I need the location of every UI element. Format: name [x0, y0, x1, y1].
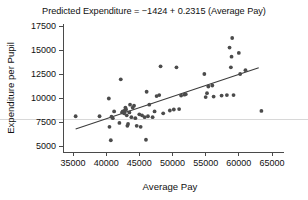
- data-point: [98, 114, 102, 118]
- data-point: [205, 91, 209, 95]
- data-point: [159, 64, 163, 68]
- data-point: [144, 138, 148, 142]
- data-point: [157, 93, 161, 97]
- data-point: [145, 90, 149, 94]
- y-tick-label: 17500: [31, 21, 56, 31]
- data-point: [228, 46, 232, 50]
- data-point: [177, 107, 181, 111]
- chart-figure: Predicted Expenditure = −1424 + 0.2315 (…: [0, 0, 308, 200]
- data-point: [139, 125, 143, 129]
- x-tick-label: 40000: [94, 158, 119, 168]
- x-tick-label: 35000: [60, 158, 85, 168]
- data-point: [220, 94, 224, 98]
- y-tick-labels: 5000750010000125001500017500: [31, 21, 56, 151]
- data-point: [259, 109, 263, 113]
- data-point: [109, 138, 113, 142]
- data-point: [204, 95, 208, 99]
- y-tick-label: 15000: [31, 45, 56, 55]
- data-point: [230, 55, 234, 59]
- data-point: [225, 93, 229, 97]
- data-point: [133, 116, 137, 120]
- x-tick-label: 60000: [226, 158, 251, 168]
- data-point: [132, 104, 136, 108]
- data-points: [74, 36, 264, 142]
- data-point: [172, 108, 176, 112]
- data-point: [135, 124, 139, 128]
- x-tick-label: 65000: [259, 158, 284, 168]
- data-point: [147, 103, 151, 107]
- data-point: [232, 93, 236, 97]
- data-point: [127, 111, 131, 115]
- data-point: [151, 115, 155, 119]
- fit-line: [76, 68, 259, 129]
- y-tick-label: 5000: [36, 141, 56, 151]
- data-point: [206, 85, 210, 89]
- data-point: [212, 95, 216, 99]
- data-point: [128, 103, 132, 107]
- data-point: [124, 108, 128, 112]
- x-axis-title: Average Pay: [143, 181, 198, 192]
- plot-axes: [63, 24, 284, 152]
- data-point: [237, 51, 241, 55]
- y-tick-marks: [59, 26, 63, 146]
- data-point: [118, 121, 122, 125]
- y-tick-label: 12500: [31, 69, 56, 79]
- data-point: [112, 110, 116, 114]
- y-axis-title: Expenditure per Pupil: [5, 42, 16, 134]
- y-tick-label: 10000: [31, 93, 56, 103]
- data-point: [210, 84, 214, 88]
- x-tick-labels: 35000400004500050000550006000065000: [60, 158, 284, 168]
- data-point: [229, 65, 233, 69]
- data-point: [129, 115, 133, 119]
- data-point: [184, 92, 188, 96]
- data-point: [108, 125, 112, 129]
- data-point: [179, 94, 183, 98]
- scatter-plot: 35000400004500050000550006000065000 5000…: [0, 0, 308, 200]
- x-tick-label: 55000: [193, 158, 218, 168]
- data-point: [143, 115, 147, 119]
- data-point: [146, 114, 150, 118]
- data-point: [119, 77, 123, 81]
- data-point: [111, 116, 115, 120]
- data-point: [230, 36, 234, 40]
- data-point: [125, 113, 129, 117]
- data-point: [168, 109, 172, 113]
- data-point: [74, 114, 78, 118]
- data-point: [126, 122, 130, 126]
- data-point: [107, 97, 111, 101]
- regression-line: [76, 68, 259, 129]
- data-point: [175, 65, 179, 69]
- x-tick-label: 45000: [127, 158, 152, 168]
- y-tick-label: 7500: [36, 117, 56, 127]
- data-point: [244, 68, 248, 72]
- data-point: [153, 110, 157, 114]
- x-tick-marks: [73, 152, 272, 156]
- data-point: [202, 72, 206, 76]
- data-point: [238, 72, 242, 76]
- x-tick-label: 50000: [160, 158, 185, 168]
- data-point: [161, 111, 165, 115]
